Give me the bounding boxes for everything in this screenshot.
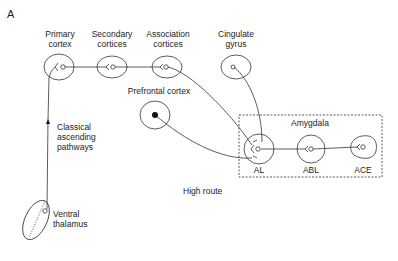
ventral-thalamus-node <box>17 196 55 243</box>
cingulate-gyrus-node <box>221 55 251 79</box>
label-line: Secondary <box>89 29 135 39</box>
label-line: pathways <box>57 142 96 152</box>
label-line: cortices <box>142 39 194 49</box>
label-line: cortex <box>40 39 80 49</box>
prefrontal-cortex-label: Prefrontal cortex <box>124 86 194 96</box>
cingulate-to-al-path <box>234 67 262 142</box>
classical-ascending-pathway <box>47 67 55 209</box>
cingulate-gyrus-label: Cingulate gyrus <box>214 29 258 49</box>
classical-pathways-label: Classical ascending pathways <box>57 122 96 152</box>
panel-label: A <box>7 8 14 20</box>
primary-cortex-label: Primary cortex <box>40 29 80 49</box>
label-line: ascending <box>57 132 96 142</box>
al-label: AL <box>249 165 269 175</box>
label-line: Association <box>142 29 194 39</box>
amygdala-label: Amygdala <box>285 118 335 128</box>
abl-label: ABL <box>300 165 322 175</box>
diagram-canvas: A Primary cortex Secondary cortices Asso… <box>0 0 398 261</box>
secondary-cortices-label: Secondary cortices <box>89 29 135 49</box>
ace-label: ACE <box>351 165 375 175</box>
label-line: cortices <box>89 39 135 49</box>
label-line: thalamus <box>53 219 88 229</box>
label-line: Classical <box>57 122 96 132</box>
label-line: Ventral <box>53 209 88 219</box>
label-line: gyrus <box>214 39 258 49</box>
high-route-label: High route <box>183 186 222 196</box>
prefrontal-to-al-path <box>155 115 252 158</box>
label-line: Primary <box>40 29 80 39</box>
association-cortices-label: Association cortices <box>142 29 194 49</box>
label-line: Cingulate <box>214 29 258 39</box>
ventral-thalamus-label: Ventral thalamus <box>53 209 88 229</box>
